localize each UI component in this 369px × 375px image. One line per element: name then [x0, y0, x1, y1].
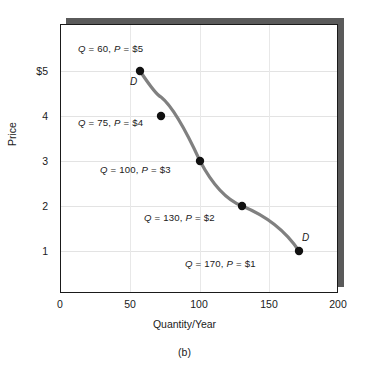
annotation-q100-q-value: = 100,	[108, 164, 142, 175]
x-tick-label-200: 200	[329, 298, 347, 310]
demand-curve-svg	[61, 25, 339, 294]
annotation-q100: Q = 100, P = $3	[100, 164, 171, 175]
annotation-q75-q-symbol: Q	[78, 117, 86, 128]
plot-area: D D Q = 60, P = $5 Q = 75, P = $4 Q = 10…	[61, 25, 337, 292]
figure-panel: D D Q = 60, P = $5 Q = 75, P = $4 Q = 10…	[0, 0, 369, 375]
annotation-q100-p-value: = $3	[148, 164, 171, 175]
annotation-q75-p-symbol: P	[114, 117, 121, 128]
annotation-q60-p-value: = $5	[121, 43, 144, 54]
y-tick-label-3: 3	[0, 155, 54, 167]
data-point-q60	[136, 67, 144, 75]
demand-curve-path	[140, 71, 299, 251]
annotation-q130-q-symbol: Q	[144, 212, 152, 223]
data-point-q170	[295, 247, 303, 255]
annotation-q170-q-symbol: Q	[185, 258, 193, 269]
annotation-q75-p-value: = $4	[121, 117, 144, 128]
y-axis-title: Price	[6, 122, 18, 146]
annotation-q130: Q = 130, P = $2	[144, 212, 215, 223]
x-axis-title: Quantity/Year	[0, 318, 369, 330]
plot-frame: D D Q = 60, P = $5 Q = 75, P = $4 Q = 10…	[60, 24, 338, 293]
x-axis-ticks: 0 50 100 150 200	[0, 298, 369, 314]
y-tick-label-5: $5	[0, 65, 54, 77]
annotation-q130-p-value: = $2	[192, 212, 215, 223]
data-point-q75	[157, 112, 165, 120]
curve-label-d-left: D	[130, 76, 137, 87]
x-tick-label-150: 150	[260, 298, 278, 310]
annotation-q60-p-symbol: P	[114, 43, 121, 54]
annotation-q60: Q = 60, P = $5	[78, 43, 143, 54]
annotation-q170: Q = 170, P = $1	[185, 258, 256, 269]
figure-caption: (b)	[0, 346, 369, 358]
annotation-q170-q-value: = 170,	[193, 258, 227, 269]
annotation-q60-q-symbol: Q	[78, 43, 86, 54]
annotation-q100-q-symbol: Q	[100, 164, 108, 175]
y-tick-label-2: 2	[0, 200, 54, 212]
data-point-q130	[238, 202, 246, 210]
y-axis-ticks: $5 4 3 2 1	[0, 24, 54, 293]
y-tick-label-4: 4	[0, 110, 54, 122]
x-tick-label-50: 50	[124, 298, 136, 310]
annotation-q60-q-value: = 60,	[86, 43, 114, 54]
annotation-q75: Q = 75, P = $4	[78, 117, 143, 128]
curve-label-d-right: D	[302, 232, 309, 243]
data-point-q100	[196, 157, 204, 165]
annotation-q75-q-value: = 75,	[86, 117, 114, 128]
x-tick-label-100: 100	[190, 298, 208, 310]
y-tick-label-1: 1	[0, 245, 54, 257]
annotation-q170-p-value: = $1	[233, 258, 256, 269]
x-tick-label-0: 0	[57, 298, 63, 310]
annotation-q130-q-value: = 130,	[152, 212, 186, 223]
